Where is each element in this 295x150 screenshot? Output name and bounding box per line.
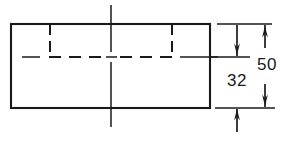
dimension-label-50: 50 [257, 56, 277, 73]
dimension-label-32: 32 [227, 72, 247, 89]
technical-drawing [0, 0, 295, 150]
drawing-canvas: 50 32 [0, 0, 295, 150]
